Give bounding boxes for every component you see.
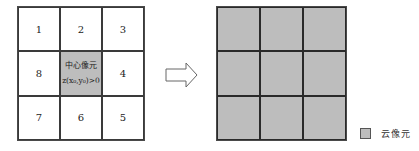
cloud-cell: [217, 7, 260, 51]
neighbor-cell-5: 5: [102, 96, 144, 140]
cloud-cell: [217, 96, 260, 140]
center-pixel-cell: 中心像元 z(x₀,y₀)>0: [60, 51, 102, 95]
legend-label: 云像元: [381, 127, 411, 140]
cloud-cell: [303, 7, 346, 51]
neighbor-cell-3: 3: [102, 7, 144, 51]
neighbor-cell-4: 4: [102, 51, 144, 95]
center-pixel-title: 中心像元: [65, 58, 97, 73]
legend: 云像元: [360, 127, 411, 140]
cloud-pixel-swatch: [360, 128, 371, 139]
neighbor-cell-8: 8: [18, 51, 60, 95]
arrow-right-icon: [165, 62, 199, 88]
neighborhood-grid: 1 2 3 8 中心像元 z(x₀,y₀)>0 4 7 6 5: [17, 6, 145, 141]
neighbor-cell-1: 1: [18, 7, 60, 51]
cloud-cell: [303, 51, 346, 95]
neighbor-cell-2: 2: [60, 7, 102, 51]
cloud-cell: [260, 51, 303, 95]
cloud-cell: [217, 51, 260, 95]
cloud-pixel-grid: [216, 6, 347, 141]
cloud-cell: [260, 96, 303, 140]
cloud-cell: [260, 7, 303, 51]
neighbor-cell-7: 7: [18, 96, 60, 140]
center-pixel-condition: z(x₀,y₀)>0: [62, 73, 100, 88]
neighbor-cell-6: 6: [60, 96, 102, 140]
cloud-cell: [303, 96, 346, 140]
